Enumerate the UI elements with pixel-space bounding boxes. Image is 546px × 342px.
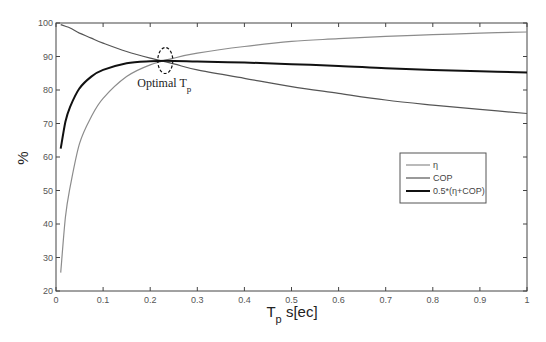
x-tick-label: 0.9 xyxy=(474,295,487,305)
x-tick-label: 0.8 xyxy=(427,295,440,305)
x-tick-label: 0 xyxy=(53,295,58,305)
x-axis-label-rest: s[ec] xyxy=(282,303,318,320)
y-tick-label: 70 xyxy=(43,119,53,129)
y-tick-label: 80 xyxy=(43,85,53,95)
legend-label: η xyxy=(433,160,438,170)
optimal-tp-annotation: Optimal Tp xyxy=(137,48,191,94)
y-axis-label: % xyxy=(14,151,31,164)
legend-label: 0.5*(η+COP) xyxy=(433,186,485,196)
y-tick-label: 60 xyxy=(43,152,53,162)
x-tick-label: 0.2 xyxy=(144,295,157,305)
y-tick-label: 20 xyxy=(43,286,53,296)
legend-label: COP xyxy=(433,173,453,183)
efficiency-chart: 2030405060708090100 00.10.20.30.40.50.60… xyxy=(0,0,546,342)
x-tick-label: 0.7 xyxy=(379,295,392,305)
x-tick-label: 0.6 xyxy=(332,295,345,305)
series-lines xyxy=(61,25,527,273)
x-tick-label: 1 xyxy=(524,295,529,305)
legend: ηCOP0.5*(η+COP) xyxy=(400,153,486,203)
y-tick-label: 40 xyxy=(43,219,53,229)
x-tick-label: 0.4 xyxy=(238,295,251,305)
cop-line xyxy=(61,25,527,114)
x-tick-label: 0.1 xyxy=(97,295,110,305)
x-axis-label-main: T xyxy=(266,303,275,320)
y-tick-label: 90 xyxy=(43,52,53,62)
y-tick-label: 100 xyxy=(38,18,53,28)
eta-line xyxy=(61,32,527,273)
x-axis-label: Tp s[ec] xyxy=(266,303,317,325)
optimal-label: Optimal Tp xyxy=(137,76,191,94)
y-tick-label: 50 xyxy=(43,186,53,196)
y-tick-label: 30 xyxy=(43,253,53,263)
x-tick-label: 0.3 xyxy=(191,295,204,305)
